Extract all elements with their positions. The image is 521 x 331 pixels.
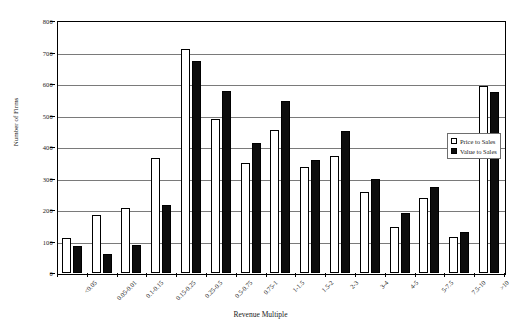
bars-layer [57, 21, 504, 273]
bar-value-to-sales [162, 205, 171, 273]
x-tick-label: >10 [498, 279, 510, 291]
bar-value-to-sales [252, 143, 261, 273]
x-tick-mark [295, 273, 296, 277]
bar-group [176, 21, 206, 273]
bar-price-to-sales [92, 215, 101, 273]
bar-group [266, 21, 296, 273]
x-tick-label: 3-4 [378, 279, 389, 290]
x-tick-label: 1-1.5 [290, 279, 305, 294]
bar-price-to-sales [270, 130, 279, 273]
y-tick-mark [50, 273, 55, 274]
x-tick-mark [355, 273, 356, 277]
y-tick-label: 0 [11, 270, 53, 277]
x-tick-label: 1.5-2 [320, 279, 335, 294]
y-tick-label: 100 [11, 238, 53, 245]
y-tick-mark [50, 147, 55, 148]
y-tick-mark [50, 210, 55, 211]
bar-value-to-sales [341, 131, 350, 273]
x-tick-label: 0.25-0.5 [203, 279, 223, 299]
y-tick-label: 400 [11, 144, 53, 151]
bar-group [325, 21, 355, 273]
bar-price-to-sales [241, 163, 250, 273]
bar-group [87, 21, 117, 273]
x-tick-mark [415, 273, 416, 277]
x-tick-label: <0.05 [82, 279, 98, 295]
y-tick-mark [50, 179, 55, 180]
bar-price-to-sales [360, 192, 369, 273]
bar-group [415, 21, 445, 273]
y-tick-mark [50, 242, 55, 243]
y-tick-mark [50, 21, 55, 22]
x-tick-mark [57, 273, 58, 277]
bar-value-to-sales [281, 101, 290, 273]
x-tick-label: 5-7.5 [439, 279, 454, 294]
bar-price-to-sales [62, 238, 71, 273]
legend-item-value-to-sales: Value to Sales [451, 146, 497, 156]
bar-group [355, 21, 385, 273]
bar-price-to-sales [330, 156, 339, 273]
x-tick-mark [266, 273, 267, 277]
x-tick-mark [176, 273, 177, 277]
bar-value-to-sales [222, 91, 231, 273]
x-tick-label: 2-3 [349, 279, 360, 290]
y-tick-label: 500 [11, 112, 53, 119]
bar-group [57, 21, 87, 273]
x-tick-label: 0.75-1 [262, 279, 279, 296]
x-tick-label: 0.1-0.15 [144, 279, 164, 299]
x-tick-label: 0.5-0.75 [233, 279, 253, 299]
x-tick-mark [385, 273, 386, 277]
bar-price-to-sales [151, 158, 160, 273]
x-tick-mark [474, 273, 475, 277]
bar-price-to-sales [449, 237, 458, 273]
bar-price-to-sales [211, 119, 220, 273]
y-tick-label: 800 [11, 18, 53, 25]
y-tick-mark [50, 116, 55, 117]
x-tick-label: 7.5-10 [470, 279, 487, 296]
revenue-multiple-bar-chart: Number of Firms 010020030040050060070080… [0, 0, 521, 331]
y-tick-label: 200 [11, 207, 53, 214]
bar-group [206, 21, 236, 273]
legend-item-price-to-sales: Price to Sales [451, 136, 497, 146]
bar-value-to-sales [311, 160, 320, 273]
chart-legend: Price to Sales Value to Sales [447, 133, 501, 159]
bar-value-to-sales [132, 245, 141, 273]
bar-value-to-sales [103, 254, 112, 273]
bar-price-to-sales [121, 208, 130, 273]
y-tick-label: 600 [11, 81, 53, 88]
legend-swatch-icon [451, 138, 457, 144]
x-tick-mark [117, 273, 118, 277]
x-tick-mark [87, 273, 88, 277]
x-tick-label: 0.15-0.25 [175, 279, 198, 302]
y-tick-mark [50, 84, 55, 85]
y-tick-label: 300 [11, 175, 53, 182]
bar-price-to-sales [390, 227, 399, 273]
bar-group [236, 21, 266, 273]
bar-group [385, 21, 415, 273]
x-tick-mark [236, 273, 237, 277]
x-tick-label: 4-5 [408, 279, 419, 290]
x-axis: <0.050.05-0.010.1-0.150.15-0.250.25-0.50… [57, 273, 504, 331]
bar-value-to-sales [371, 179, 380, 273]
x-tick-mark [504, 273, 505, 277]
bar-price-to-sales [479, 86, 488, 273]
bar-value-to-sales [401, 213, 410, 273]
y-tick-label: 700 [11, 49, 53, 56]
x-tick-mark [146, 273, 147, 277]
bar-value-to-sales [192, 61, 201, 273]
x-tick-mark [206, 273, 207, 277]
bar-price-to-sales [300, 167, 309, 273]
x-axis-title: Revenue Multiple [0, 310, 521, 319]
y-axis: Number of Firms 010020030040050060070080… [0, 0, 53, 331]
legend-label: Value to Sales [460, 148, 497, 155]
bar-value-to-sales [430, 187, 439, 273]
x-tick-mark [444, 273, 445, 277]
bar-value-to-sales [490, 92, 499, 273]
bar-value-to-sales [73, 246, 82, 273]
bar-value-to-sales [460, 232, 469, 273]
bar-price-to-sales [181, 49, 190, 273]
bar-group [117, 21, 147, 273]
legend-swatch-icon [451, 148, 457, 154]
legend-label: Price to Sales [460, 138, 495, 145]
x-tick-mark [325, 273, 326, 277]
bar-group [146, 21, 176, 273]
